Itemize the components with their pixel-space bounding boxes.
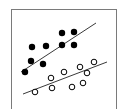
data-point-filled	[43, 43, 49, 49]
data-point-filled	[22, 69, 28, 75]
data-point-filled	[29, 44, 35, 50]
data-point-open	[32, 89, 38, 95]
data-point-open	[84, 70, 90, 76]
data-point-filled	[28, 58, 34, 64]
data-point-filled	[71, 29, 77, 35]
scatter-plot	[0, 0, 126, 109]
data-point-filled	[59, 42, 65, 48]
data-point-open	[49, 85, 55, 91]
data-point-open	[48, 75, 54, 81]
data-point-open	[61, 69, 67, 75]
data-point-open	[69, 84, 75, 90]
data-point-open	[77, 64, 83, 70]
series-layer	[21, 23, 107, 95]
data-point-filled	[40, 61, 46, 67]
series-filled	[21, 23, 96, 75]
data-point-filled	[71, 42, 77, 48]
series-open	[23, 59, 107, 95]
data-point-filled	[59, 30, 65, 36]
data-point-open	[80, 80, 86, 86]
plot-frame	[12, 10, 117, 110]
data-point-open	[91, 59, 97, 65]
